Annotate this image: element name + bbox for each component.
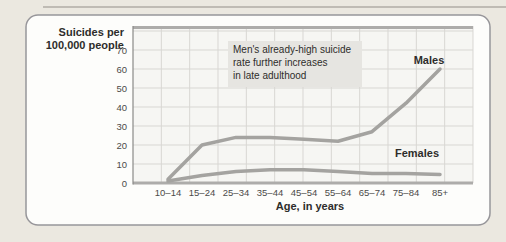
x-tick-label: 75–84 <box>393 187 419 198</box>
annotation-line-3: in late adulthood <box>233 70 306 81</box>
annotation-line-1: Men's already-high suicide <box>233 44 352 55</box>
y-tick-label: 60 <box>116 64 127 75</box>
y-tick-label: 30 <box>116 121 127 132</box>
y-axis-title-line-2: 100,000 people <box>46 39 124 51</box>
y-tick-label: 70 <box>116 45 127 56</box>
x-tick-label: 15–24 <box>189 187 215 198</box>
x-tick-label: 85+ <box>432 187 449 198</box>
y-tick-label: 40 <box>116 102 127 113</box>
males-series-label: Males <box>414 54 445 66</box>
y-tick-label: 20 <box>116 140 127 151</box>
x-tick-label: 25–34 <box>223 187 249 198</box>
y-tick-label: 50 <box>116 83 127 94</box>
x-axis-title: Age, in years <box>276 200 344 212</box>
x-tick-label: 10–14 <box>155 187 181 198</box>
y-tick-label: 0 <box>122 178 127 189</box>
x-tick-label: 55–64 <box>325 187 351 198</box>
females-series-label: Females <box>395 147 439 159</box>
y-tick-label: 10 <box>116 159 127 170</box>
suicide-rate-chart: Men's already-high suicide rate further … <box>0 0 506 242</box>
y-axis-title-line-1: Suicides per <box>59 26 125 38</box>
x-tick-label: 35–44 <box>257 187 283 198</box>
x-tick-label: 45–54 <box>291 187 317 198</box>
annotation-line-2: rate further increases <box>233 57 328 68</box>
x-tick-label: 65–74 <box>359 187 385 198</box>
